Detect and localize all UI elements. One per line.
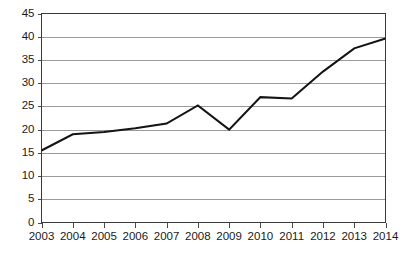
x-tick-label-2008: 2008: [185, 230, 211, 242]
x-tick-label-2007: 2007: [154, 230, 180, 242]
x-tick-label-2010: 2010: [248, 230, 274, 242]
y-tick-label-20: 20: [22, 123, 35, 135]
chart-canvas: 051015202530354045 200320042005200620072…: [0, 0, 411, 257]
chart-background: [0, 0, 411, 257]
x-tick-label-2004: 2004: [60, 230, 86, 242]
x-tick-label-2011: 2011: [279, 230, 304, 242]
y-tick-label-0: 0: [28, 216, 34, 228]
x-tick-label-2012: 2012: [310, 230, 336, 242]
x-tick-label-2009: 2009: [216, 230, 242, 242]
y-tick-label-5: 5: [28, 192, 34, 204]
y-tick-label-40: 40: [22, 30, 35, 42]
y-tick-label-45: 45: [22, 7, 35, 19]
line-chart: 051015202530354045 200320042005200620072…: [0, 0, 411, 257]
x-tick-label-2006: 2006: [123, 230, 149, 242]
x-tick-label-2013: 2013: [341, 230, 367, 242]
y-tick-label-10: 10: [22, 169, 35, 181]
x-tick-label-2014: 2014: [373, 230, 399, 242]
y-tick-label-35: 35: [22, 53, 35, 65]
y-tick-label-15: 15: [22, 146, 35, 158]
x-tick-label-2005: 2005: [91, 230, 117, 242]
y-tick-label-25: 25: [22, 99, 35, 111]
x-tick-label-2003: 2003: [29, 230, 55, 242]
y-tick-label-30: 30: [22, 76, 35, 88]
